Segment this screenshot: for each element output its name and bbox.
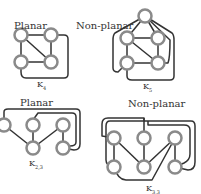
k23-title: Planar — [20, 97, 53, 108]
k4-edges — [21, 35, 68, 78]
k33-title: Non-planar — [128, 98, 185, 109]
k5-nodes — [121, 10, 165, 70]
k23-nodes — [0, 119, 70, 155]
k4-title: Planar — [14, 20, 47, 31]
k4-label: K4 — [37, 80, 46, 91]
k5-title: Non-planar — [76, 20, 133, 31]
k23-label: K2,3 — [29, 159, 43, 170]
k33-label: K3,3 — [146, 184, 160, 194]
k5-label: K5 — [143, 82, 152, 93]
